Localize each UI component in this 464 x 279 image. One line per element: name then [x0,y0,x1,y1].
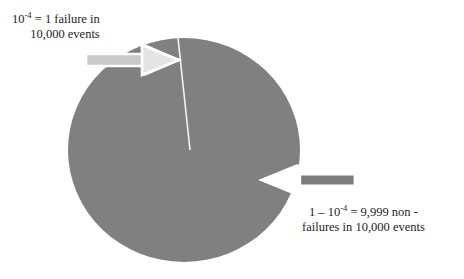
failure-annotation-label: 10-4 = 1 failure in 10,000 events [12,12,100,42]
non-failure-annotation-line-1: 1 – 10-4 = 9,999 non - [302,205,425,220]
failure-base: 10 [12,12,25,26]
failure-exponent: -4 [25,10,32,20]
failure-annotation-line-2: 10,000 events [12,27,100,42]
non-failure-annotation-label: 1 – 10-4 = 9,999 non - failures in 10,00… [302,205,425,235]
failure-pointer-arrow-icon [84,44,184,76]
failure-rest: = 1 failure in [32,12,100,26]
non-failure-annotation-line-2: failures in 10,000 events [302,220,425,235]
non-failure-rest: = 9,999 non - [347,205,418,219]
failure-annotation-line-1: 10-4 = 1 failure in [12,12,100,27]
pie-chart-figure: 10-4 = 1 failure in 10,000 events 1 – 10… [0,0,464,279]
non-failure-prefix: 1 – 10 [309,205,340,219]
non-failure-pointer-arrow-icon [258,163,358,197]
